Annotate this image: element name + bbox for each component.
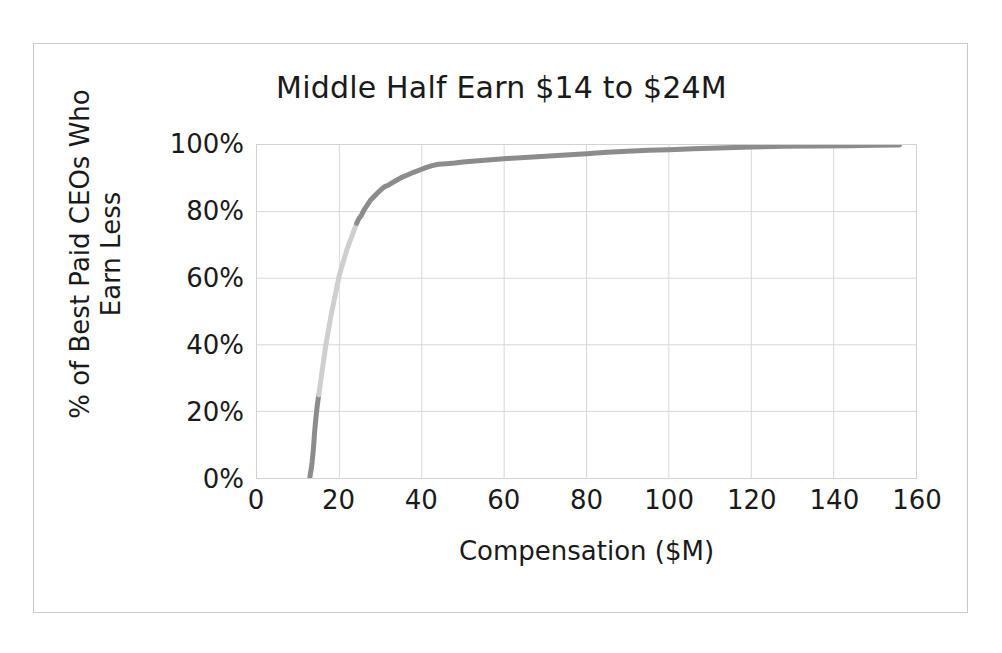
x-tick-label: 20 <box>299 487 379 513</box>
curve-segment-lower-quartile <box>310 395 319 478</box>
x-tick-label: 80 <box>547 487 627 513</box>
y-tick-label: 80% <box>144 198 244 224</box>
y-tick-label: 60% <box>144 265 244 291</box>
y-axis-tick-labels: 0%20%40%60%80%100% <box>132 144 244 479</box>
y-axis-title-line-1: % of Best Paid CEOs Who <box>65 89 95 419</box>
x-tick-label: 120 <box>712 487 792 513</box>
y-axis-title-line-2: Earn Less <box>96 192 126 316</box>
x-axis-title: Compensation ($M) <box>256 536 917 566</box>
x-axis-tick-labels: 020406080100120140160 <box>256 487 917 527</box>
plot-area <box>256 144 917 479</box>
y-tick-label: 40% <box>144 332 244 358</box>
plot-svg <box>257 145 916 478</box>
y-tick-label: 100% <box>144 131 244 157</box>
x-tick-label: 0 <box>216 487 296 513</box>
x-tick-label: 60 <box>464 487 544 513</box>
y-tick-label: 20% <box>144 399 244 425</box>
x-tick-label: 100 <box>629 487 709 513</box>
x-tick-label: 160 <box>877 487 957 513</box>
x-tick-label: 140 <box>794 487 874 513</box>
x-tick-label: 40 <box>381 487 461 513</box>
chart-frame: Middle Half Earn $14 to $24M % of Best P… <box>33 43 968 613</box>
chart-title: Middle Half Earn $14 to $24M <box>34 70 969 105</box>
curve-segment-middle-half <box>319 223 357 394</box>
gridlines <box>257 145 916 478</box>
cdf-curve <box>310 145 900 478</box>
